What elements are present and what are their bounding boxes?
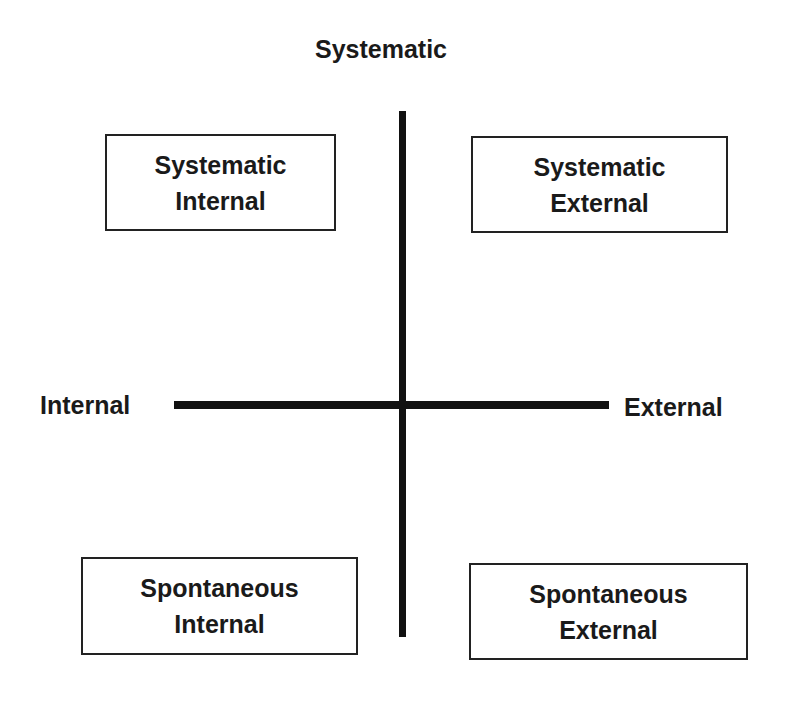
quadrant-line1: Spontaneous	[140, 570, 298, 606]
quadrant-line1: Systematic	[533, 149, 665, 185]
quadrant-systematic-internal: Systematic Internal	[105, 134, 336, 231]
quadrant-line1: Systematic	[154, 147, 286, 183]
quadrant-line2: Internal	[174, 606, 264, 642]
quadrant-line2: External	[559, 612, 658, 648]
axis-label-left: Internal	[40, 390, 130, 420]
quadrant-line1: Spontaneous	[529, 576, 687, 612]
quadrant-spontaneous-external: Spontaneous External	[469, 563, 748, 660]
vertical-axis-line	[399, 111, 406, 637]
axis-label-top: Systematic	[315, 34, 447, 64]
horizontal-axis-line	[174, 401, 609, 409]
axis-label-right: External	[624, 392, 723, 422]
quadrant-line2: Internal	[175, 183, 265, 219]
quadrant-systematic-external: Systematic External	[471, 136, 728, 233]
quadrant-line2: External	[550, 185, 649, 221]
quadrant-spontaneous-internal: Spontaneous Internal	[81, 557, 358, 655]
